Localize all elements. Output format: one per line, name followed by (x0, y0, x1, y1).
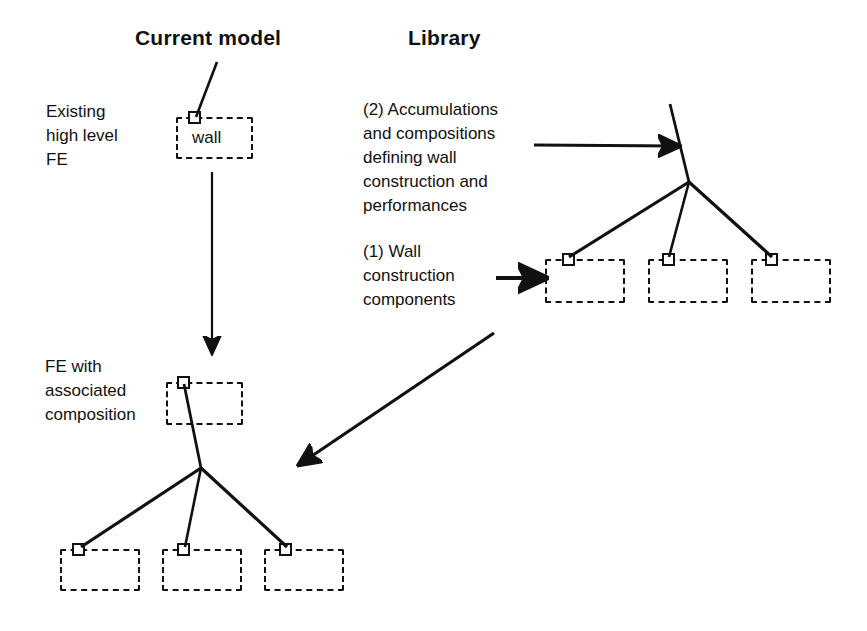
header-library: Library (408, 26, 481, 50)
connector-overlay (0, 0, 867, 631)
node-square-icon (279, 543, 292, 556)
library-tree-edge-3 (689, 182, 772, 257)
label-existing-high-level-fe: Existing high level FE (46, 100, 186, 172)
node-square-icon (72, 543, 85, 556)
arrow-diagonal-down-left-icon (300, 333, 494, 464)
node-square-icon (765, 253, 778, 266)
node-square-icon (177, 376, 190, 389)
library-tree-stem (670, 104, 689, 182)
library-leaf-box-3 (751, 259, 831, 303)
node-square-icon (188, 111, 201, 124)
library-leaf-box-1 (545, 259, 625, 303)
composed-tree-edge-2 (185, 468, 201, 547)
composed-fe-leaf-box-2 (162, 549, 242, 591)
composed-fe-leaf-box-3 (264, 549, 344, 591)
node-square-icon (177, 543, 190, 556)
library-tree-edge-2 (669, 182, 689, 257)
library-tree-edge-1 (569, 182, 689, 257)
node-square-icon (662, 253, 675, 266)
label-library-note-1: (1) Wall construction components (363, 240, 513, 312)
label-library-note-2: (2) Accumulations and compositions defin… (363, 98, 543, 218)
pointer-current-model-to-wall (196, 62, 217, 117)
library-leaf-box-2 (648, 259, 728, 303)
composed-tree-edge-1 (81, 468, 201, 547)
composed-tree-edge-3 (201, 468, 287, 547)
node-square-icon (562, 253, 575, 266)
diagram-canvas: Current model Library Existing high leve… (0, 0, 867, 631)
arrow-right-icon-note-2 (534, 145, 678, 146)
wall-fe-box-label: wall (192, 128, 221, 148)
header-current-model: Current model (135, 26, 281, 50)
